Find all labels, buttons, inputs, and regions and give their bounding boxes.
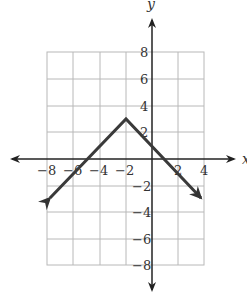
svg-text:−2: −2 — [132, 179, 151, 194]
svg-text:4: 4 — [200, 163, 208, 178]
svg-text:6: 6 — [140, 72, 148, 87]
svg-text:−2: −2 — [115, 163, 134, 178]
svg-text:−4: −4 — [89, 163, 108, 178]
x-axis-label: x — [242, 151, 247, 167]
y-axis-label: y — [146, 0, 156, 12]
coordinate-plane: y x −8 −6 −4 −2 2 4 8 6 4 2 −2 −4 −6 −8 — [0, 0, 247, 294]
svg-text:−8: −8 — [37, 163, 56, 178]
svg-text:−4: −4 — [132, 205, 151, 220]
svg-text:8: 8 — [140, 45, 148, 60]
svg-text:−8: −8 — [132, 258, 151, 273]
x-tick-labels: −8 −6 −4 −2 2 4 — [37, 163, 208, 178]
svg-text:4: 4 — [140, 99, 148, 114]
svg-text:−6: −6 — [132, 232, 151, 247]
